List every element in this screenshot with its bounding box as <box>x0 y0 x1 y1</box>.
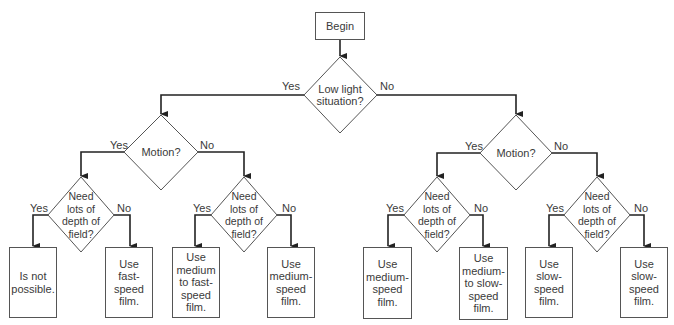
dof2-yes-label: Yes <box>193 202 211 214</box>
outcome-fast-speed: Use fast- speed film. <box>105 247 153 318</box>
dof2-no-label: No <box>282 202 296 214</box>
outcome-medium-speed-a: Use medium- speed film. <box>267 247 315 318</box>
root-no-label: No <box>380 80 394 92</box>
dof3-yes-label: Yes <box>386 202 404 214</box>
motion-left-yes-label: Yes <box>110 139 128 151</box>
begin-label: Begin <box>326 20 354 33</box>
root-decision-text: Low light situation? <box>308 80 372 110</box>
motion-left-text: Motion? <box>128 145 194 160</box>
dof2-text: Need lots of depth of field? <box>215 189 273 241</box>
dof3-no-label: No <box>474 202 488 214</box>
dof4-text: Need lots of depth of field? <box>568 189 626 241</box>
motion-right-text: Motion? <box>483 146 549 161</box>
dof1-yes-label: Yes <box>30 202 48 214</box>
dof3-text: Need lots of depth of field? <box>408 189 466 241</box>
dof1-no-label: No <box>117 202 131 214</box>
root-yes-label: Yes <box>282 80 300 92</box>
outcome-medium-to-fast: Use medium to fast- speed film. <box>172 247 220 318</box>
outcome-slow-speed-a: Use slow- speed film. <box>525 247 573 318</box>
dof4-no-label: No <box>634 202 648 214</box>
outcome-slow-speed-b: Use slow- speed film. <box>620 247 668 318</box>
outcome-medium-speed-b: Use medium- speed film. <box>363 247 412 319</box>
outcome-not-possible: Is not possible. <box>9 247 57 318</box>
dof4-yes-label: Yes <box>546 202 564 214</box>
motion-right-no-label: No <box>554 140 568 152</box>
begin-node: Begin <box>315 12 365 40</box>
dof1-text: Need lots of depth of field? <box>52 189 110 241</box>
outcome-medium-to-slow: Use medium- to slow- speed film. <box>459 247 508 320</box>
motion-left-no-label: No <box>200 139 214 151</box>
motion-right-yes-label: Yes <box>465 140 483 152</box>
